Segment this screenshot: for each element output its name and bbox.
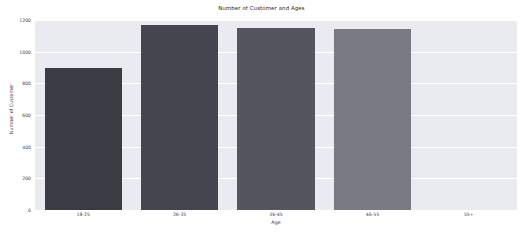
y-axis-tick-labels: 020040060080010001200	[0, 20, 523, 210]
y-tick-label: 1200	[11, 18, 31, 23]
x-tick-label: 26-35	[131, 212, 227, 218]
chart-figure: Number of Customer and Ages 020040060080…	[0, 0, 523, 238]
chart-title: Number of Customer and Ages	[0, 4, 523, 12]
y-tick-label: 0	[11, 208, 31, 213]
y-tick-label: 200	[11, 176, 31, 181]
x-axis-title: Age	[35, 220, 517, 226]
x-tick-label: 36-45	[228, 212, 324, 218]
x-tick-label: 46-55	[324, 212, 420, 218]
y-axis-title: Number of Customer	[9, 59, 15, 159]
y-tick-label: 1000	[11, 49, 31, 54]
x-tick-label: 18-25	[35, 212, 131, 218]
x-tick-label: 55+	[421, 212, 517, 218]
